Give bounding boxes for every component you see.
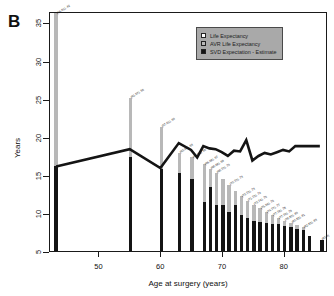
x-axis-tick — [98, 252, 99, 257]
legend-item-label: AVR Life Expectancy — [210, 41, 260, 47]
figure-panel-b: B Years Age at surgery (years) (16,91), … — [0, 0, 334, 296]
legend-item-label: Life Expectancy — [210, 33, 248, 39]
legend-item-life-expectancy: Life Expectancy — [201, 32, 277, 39]
life-expectancy-line — [50, 13, 326, 251]
y-axis-tick-label: 5 — [34, 247, 43, 257]
y-axis-tick — [43, 138, 49, 139]
y-axis-tick — [43, 100, 49, 101]
x-axis-tick — [160, 252, 161, 257]
y-axis-tick — [43, 23, 49, 24]
x-axis-tick — [284, 252, 285, 257]
y-axis-tick-label: 30 — [34, 57, 43, 67]
y-axis-tick — [43, 62, 49, 63]
x-axis-tick-label: 50 — [94, 262, 102, 271]
legend-item-label: SVD Expectation - Estimate — [210, 49, 277, 55]
y-axis-tick-label: 35 — [34, 18, 43, 28]
life-expectancy-polyline — [56, 140, 320, 168]
y-axis-tick-label: 10 — [34, 209, 43, 219]
y-axis-tick — [43, 214, 49, 215]
x-axis-tick-label: 60 — [156, 262, 164, 271]
legend-swatch-icon — [201, 49, 206, 54]
x-axis-label: Age at surgery (years) — [148, 279, 227, 288]
legend-swatch-icon — [201, 41, 206, 46]
legend-item-svd-expectation-estimate: SVD Expectation - Estimate — [201, 48, 277, 55]
x-axis-tick-label: 80 — [280, 262, 288, 271]
plot-area: (16,91), 42(61,57), 55(57,61), 60(63,64)… — [49, 12, 327, 252]
y-axis-tick — [43, 176, 49, 177]
y-axis-tick — [43, 252, 49, 253]
y-axis-tick-label: 20 — [34, 133, 43, 143]
y-axis-tick-label: 15 — [34, 171, 43, 181]
y-axis-label: Years — [13, 138, 22, 158]
legend: Life ExpectancyAVR Life ExpectancySVD Ex… — [196, 27, 283, 60]
y-axis-tick-label: 25 — [34, 95, 43, 105]
x-axis-tick-label: 70 — [218, 262, 226, 271]
x-axis-tick — [222, 252, 223, 257]
legend-swatch-icon — [201, 33, 206, 38]
panel-letter: B — [8, 12, 20, 32]
legend-item-avr-life-expectancy: AVR Life Expectancy — [201, 40, 277, 47]
